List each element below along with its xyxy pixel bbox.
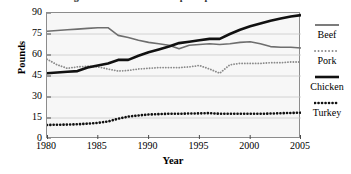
meat-consumption-line-chart: Average Annual Meat Consumption per Pers… — [0, 0, 351, 174]
plot-svg — [47, 13, 301, 139]
legend-swatch-turkey-icon — [314, 100, 340, 106]
series-line-turkey — [47, 113, 301, 125]
x-axis-tick-labels: 198019851990199520002005 — [0, 140, 351, 154]
legend-label: Beef — [303, 29, 351, 40]
legend-swatch-beef-icon — [314, 22, 340, 28]
legend-label: Chicken — [303, 81, 351, 92]
x-axis-title: Year — [46, 155, 300, 166]
x-tick-label: 1995 — [188, 140, 208, 151]
legend-swatch-chicken-icon — [314, 74, 340, 80]
legend-item-turkey[interactable]: Turkey — [303, 100, 351, 118]
y-axis-title: Pounds — [16, 28, 27, 88]
plot-area — [46, 12, 300, 138]
legend-item-chicken[interactable]: Chicken — [303, 74, 351, 92]
series-line-pork — [47, 59, 301, 73]
x-tick-label: 1980 — [36, 140, 56, 151]
legend-item-beef[interactable]: Beef — [303, 22, 351, 40]
legend-item-pork[interactable]: Pork — [303, 48, 351, 66]
y-tick-label: 15 — [2, 112, 42, 122]
legend-label: Turkey — [303, 107, 351, 118]
y-tick-label: 90 — [2, 7, 42, 17]
x-tick-label: 2000 — [239, 140, 259, 151]
chart-title: Average Annual Meat Consumption per Pers… — [46, 0, 300, 2]
x-tick-label: 2005 — [290, 140, 310, 151]
legend-swatch-pork-icon — [314, 48, 340, 54]
legend-label: Pork — [303, 55, 351, 66]
y-tick-label: 30 — [2, 91, 42, 101]
x-tick-label: 1990 — [138, 140, 158, 151]
x-tick-label: 1985 — [87, 140, 107, 151]
chart-legend: BeefPorkChickenTurkey — [303, 22, 351, 128]
